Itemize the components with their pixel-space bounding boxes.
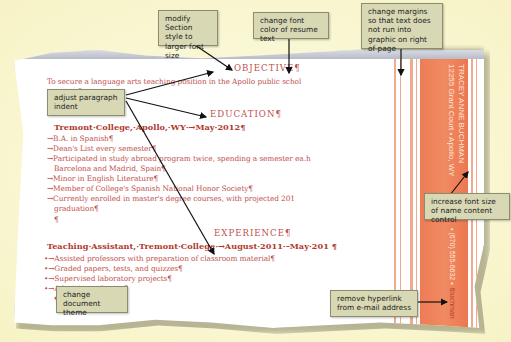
- education-item-continued: graduation¶: [54, 204, 99, 213]
- experience-item: •→Assisted professors with preparation o…: [44, 254, 275, 263]
- experience-job-line: Teaching·Assistant,·Tremont·College·→Aug…: [47, 241, 337, 251]
- email-hyperlink[interactable]: tbuchman: [449, 288, 456, 319]
- address-text: 12255 Grant Court • Apollo, WY: [447, 64, 456, 177]
- callout-paragraph-indent: adjust paragraph indent: [47, 89, 125, 116]
- education-item: →B.A. in Spanish¶: [47, 134, 113, 143]
- margin-line: [394, 59, 396, 328]
- phone-text: • (670) 555-6632 •: [449, 228, 456, 285]
- margin-line: [416, 59, 417, 328]
- margin-line: [410, 59, 413, 328]
- experience-item: •→Supervised laboratory projects¶: [44, 274, 172, 283]
- callout-font-color: change font color of resume text: [253, 12, 329, 39]
- experience-item: •→Graded papers, tests, and quizzes¶: [44, 264, 183, 273]
- callout-document-theme: change document theme: [56, 286, 128, 313]
- education-heading: EDUCATION¶: [210, 109, 282, 119]
- education-item: →Dean's List every semester¶: [47, 144, 156, 153]
- education-item-continued: Barcelona and Madrid, Spain¶: [54, 164, 166, 173]
- objective-line: To secure a language arts teaching posit…: [47, 77, 301, 86]
- education-item: →Minor in English Literature¶: [47, 174, 158, 183]
- education-item: →Currently enrolled in master's degree c…: [47, 194, 295, 203]
- callout-name-font-size: increase font size of name content contr…: [424, 193, 510, 220]
- objective-heading: OBJECTIVE¶: [234, 63, 301, 73]
- callout-margins: change margins so that text does not run…: [361, 3, 443, 49]
- callout-hyperlink: remove hyperlink from e-mail address: [330, 290, 418, 317]
- callout-section-style: modify Section style to larger font size: [158, 10, 218, 46]
- experience-heading: EXPERIENCE¶: [214, 228, 291, 238]
- education-item: →Participated in study abroad program tw…: [47, 154, 311, 163]
- margin-line: [400, 59, 401, 328]
- education-item: →Member of College's Spanish National Ho…: [47, 184, 253, 193]
- education-school-line: Tremont·College,·Apollo,·WY·→May·2012¶: [54, 122, 245, 132]
- name-content-control[interactable]: TRACEY ANNE BUCHMAN: [457, 64, 466, 163]
- paragraph-mark: ¶: [54, 215, 59, 224]
